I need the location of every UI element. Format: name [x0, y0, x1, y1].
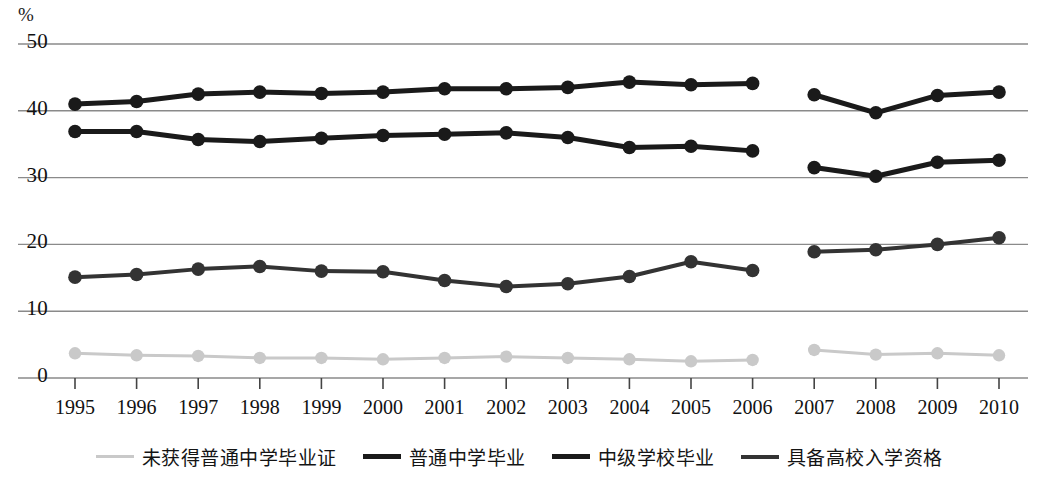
- series-1: [68, 75, 1006, 119]
- data-point-marker[interactable]: [992, 231, 1006, 245]
- y-tick-label-0: 0: [4, 363, 48, 388]
- data-point-marker[interactable]: [499, 280, 513, 294]
- data-point-marker[interactable]: [130, 125, 144, 139]
- data-point-marker[interactable]: [253, 260, 267, 274]
- data-point-marker[interactable]: [191, 133, 205, 147]
- series-line-segment-1: [814, 350, 999, 355]
- data-point-marker[interactable]: [377, 353, 389, 365]
- data-point-marker[interactable]: [684, 255, 698, 269]
- legend-line-swatch: [96, 455, 134, 458]
- data-point-marker[interactable]: [315, 87, 329, 101]
- data-point-marker[interactable]: [69, 347, 81, 359]
- data-point-marker[interactable]: [623, 353, 635, 365]
- data-point-marker[interactable]: [623, 141, 637, 155]
- data-point-marker[interactable]: [992, 153, 1006, 167]
- gridlines: [18, 44, 1028, 378]
- data-point-marker[interactable]: [315, 352, 327, 364]
- data-point-marker[interactable]: [931, 347, 943, 359]
- data-point-marker[interactable]: [931, 89, 945, 103]
- series-line-segment-0: [75, 82, 753, 104]
- x-tick-label-2000: 2000: [363, 396, 403, 419]
- data-point-marker[interactable]: [746, 77, 760, 91]
- data-point-marker[interactable]: [869, 169, 883, 183]
- data-point-marker[interactable]: [68, 97, 82, 111]
- data-point-marker[interactable]: [562, 352, 574, 364]
- data-point-marker[interactable]: [438, 82, 452, 96]
- legend-line-swatch: [363, 454, 401, 459]
- data-point-marker[interactable]: [315, 264, 329, 278]
- legend-label: 普通中学毕业: [409, 443, 526, 470]
- data-point-marker[interactable]: [130, 268, 144, 282]
- legend-item-0[interactable]: 未获得普通中学毕业证: [96, 443, 337, 470]
- data-point-marker[interactable]: [623, 270, 637, 284]
- x-tick-label-2001: 2001: [425, 396, 465, 419]
- data-point-marker[interactable]: [499, 126, 513, 140]
- data-point-marker[interactable]: [808, 344, 820, 356]
- data-point-marker[interactable]: [68, 125, 82, 139]
- x-tick-label-2009: 2009: [917, 396, 957, 419]
- data-point-marker[interactable]: [500, 350, 512, 362]
- x-tick-label-2003: 2003: [548, 396, 588, 419]
- x-tick-label-1996: 1996: [117, 396, 157, 419]
- legend-line-swatch: [741, 455, 779, 459]
- data-point-marker[interactable]: [746, 354, 758, 366]
- data-point-marker[interactable]: [130, 349, 142, 361]
- data-point-marker[interactable]: [807, 161, 821, 175]
- data-point-marker[interactable]: [561, 131, 575, 145]
- legend-item-3[interactable]: 具备高校入学资格: [741, 443, 943, 470]
- data-point-marker[interactable]: [191, 262, 205, 276]
- series-line-segment-1: [814, 160, 999, 176]
- data-point-marker[interactable]: [499, 82, 513, 96]
- data-point-marker[interactable]: [192, 350, 204, 362]
- x-tick-label-1999: 1999: [301, 396, 341, 419]
- data-point-marker[interactable]: [438, 352, 450, 364]
- data-point-marker[interactable]: [253, 135, 267, 149]
- data-point-marker[interactable]: [993, 349, 1005, 361]
- data-point-marker[interactable]: [68, 270, 82, 284]
- data-point-marker[interactable]: [130, 95, 144, 109]
- data-point-marker[interactable]: [869, 243, 883, 257]
- series-line-segment-0: [75, 132, 753, 151]
- x-tick-label-2005: 2005: [671, 396, 711, 419]
- data-point-marker[interactable]: [746, 264, 760, 278]
- x-tick-label-1995: 1995: [55, 396, 95, 419]
- data-point-marker[interactable]: [685, 355, 697, 367]
- data-point-marker[interactable]: [438, 127, 452, 141]
- x-tick-label-1998: 1998: [240, 396, 280, 419]
- data-point-marker[interactable]: [191, 87, 205, 101]
- legend-label: 中级学校毕业: [598, 443, 715, 470]
- x-tick-label-2004: 2004: [609, 396, 649, 419]
- series-line-segment-1: [814, 92, 999, 113]
- y-tick-label-50: 50: [4, 29, 48, 54]
- data-point-marker[interactable]: [376, 265, 390, 279]
- series-2: [68, 125, 1006, 183]
- data-point-marker[interactable]: [807, 245, 821, 259]
- data-point-marker[interactable]: [931, 155, 945, 169]
- x-tick-label-2008: 2008: [856, 396, 896, 419]
- data-point-marker[interactable]: [684, 78, 698, 92]
- series-line-segment-0: [75, 353, 753, 361]
- data-point-marker[interactable]: [807, 88, 821, 102]
- legend-item-2[interactable]: 中级学校毕业: [552, 443, 715, 470]
- x-tick-label-2010: 2010: [979, 396, 1019, 419]
- data-point-marker[interactable]: [869, 106, 883, 120]
- data-point-marker[interactable]: [746, 144, 760, 158]
- data-point-marker[interactable]: [315, 131, 329, 145]
- legend-item-1[interactable]: 普通中学毕业: [363, 443, 526, 470]
- data-point-marker[interactable]: [931, 238, 945, 252]
- data-point-marker[interactable]: [253, 85, 267, 99]
- data-point-marker[interactable]: [870, 348, 882, 360]
- data-point-marker[interactable]: [684, 139, 698, 153]
- series-line-segment-0: [75, 262, 753, 287]
- data-point-marker[interactable]: [438, 274, 452, 288]
- data-point-marker[interactable]: [561, 277, 575, 291]
- data-point-marker[interactable]: [376, 85, 390, 99]
- x-tick-label-1997: 1997: [178, 396, 218, 419]
- data-point-marker[interactable]: [254, 352, 266, 364]
- data-point-marker[interactable]: [623, 75, 637, 89]
- data-point-marker[interactable]: [561, 81, 575, 95]
- data-point-marker[interactable]: [376, 129, 390, 143]
- y-tick-label-20: 20: [4, 229, 48, 254]
- y-axis-unit-label: %: [18, 4, 34, 26]
- data-point-marker[interactable]: [992, 85, 1006, 99]
